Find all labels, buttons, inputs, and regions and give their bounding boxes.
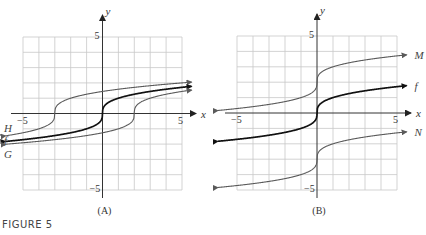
y-axis-label: y	[105, 5, 111, 17]
x-tick-label-min: −5	[17, 115, 28, 126]
panel-label: (A)	[98, 205, 112, 217]
x-tick-label-max: 5	[393, 114, 398, 125]
y-tick-label-min: −5	[90, 183, 101, 194]
figure-canvas: xy−555−5HfG(A) xy−555−5MfN(B)	[0, 0, 426, 235]
curve-label-n: N	[414, 126, 423, 138]
curve-m-panel-b	[218, 55, 407, 111]
y-axis-label: y	[319, 4, 325, 16]
y-tick-label-max: 5	[95, 30, 100, 41]
curve-n-panel-b	[218, 132, 407, 188]
panel-label: (B)	[312, 205, 325, 217]
x-tick-label-max: 5	[178, 115, 183, 126]
curve-label-m: M	[414, 49, 425, 61]
curve-label-g: G	[4, 148, 12, 160]
y-tick-label-max: 5	[309, 29, 314, 40]
panel-a: xy−555−5HfG(A)	[3, 5, 206, 217]
y-tick-label-min: −5	[304, 183, 315, 194]
x-axis-label: x	[200, 108, 206, 120]
x-tick-label-min: −5	[231, 114, 242, 125]
curve-label-h: H	[3, 122, 13, 134]
figure-label: FIGURE 5	[2, 219, 53, 230]
x-axis-label: x	[415, 107, 421, 119]
panel-b: xy−555−5MfN(B)	[218, 4, 425, 217]
curve-label-f: f	[415, 80, 420, 92]
